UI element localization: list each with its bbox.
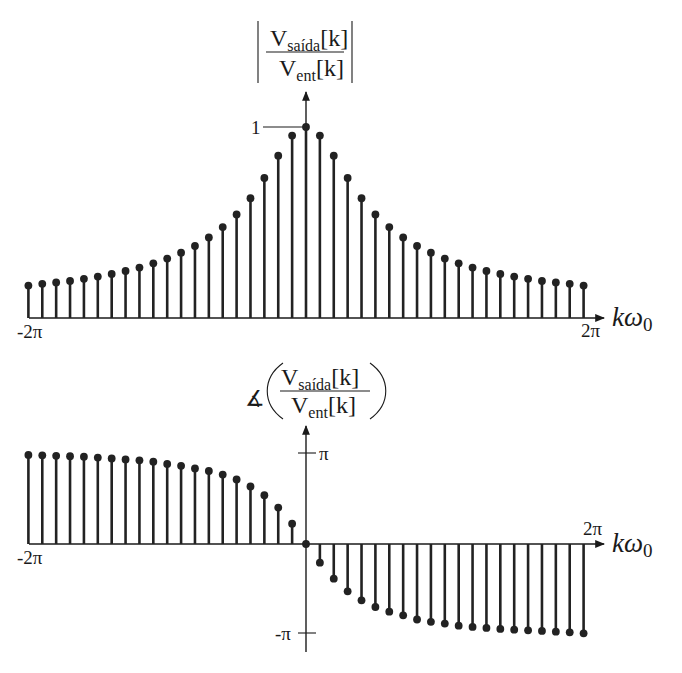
- stem-marker-k-15: [94, 454, 102, 462]
- stem-marker-k-18: [52, 452, 60, 460]
- x-axis-label: kω0: [612, 302, 653, 335]
- stem-marker-k-9: [177, 249, 185, 257]
- angle-symbol: ∡: [245, 386, 265, 411]
- x-tick-label-left: -2π: [17, 321, 43, 342]
- stem-marker-k-11: [149, 259, 157, 267]
- stem-marker-k13: [483, 624, 491, 632]
- stem-marker-k7: [399, 233, 407, 241]
- stem-marker-k-10: [163, 255, 171, 263]
- stem-marker-k-20: [25, 282, 33, 290]
- stem-marker-k11: [455, 259, 463, 267]
- stem-marker-k1: [316, 132, 324, 140]
- x-tick-label-right: 2π: [581, 320, 601, 341]
- stem-marker-k-13: [122, 456, 130, 464]
- stem-marker-k8: [413, 242, 421, 250]
- stem-marker-k8: [413, 616, 421, 624]
- stem-marker-k5: [372, 603, 380, 611]
- title-denominator: Vent[k]: [279, 55, 344, 84]
- stem-marker-k-17: [66, 277, 74, 285]
- stem-marker-k1: [316, 559, 324, 567]
- stem-marker-k13: [483, 267, 491, 275]
- magnitude-stems: [25, 123, 588, 318]
- y-tick-label-1: 1: [251, 117, 261, 138]
- stem-marker-k-10: [163, 460, 171, 468]
- stem-marker-k4: [358, 194, 366, 202]
- stem-marker-k3: [344, 587, 352, 595]
- stem-marker-k-1: [288, 520, 296, 528]
- stem-marker-k-16: [80, 275, 88, 283]
- stem-marker-k16: [524, 275, 532, 283]
- x-tick-label-left: -2π: [17, 547, 43, 568]
- stem-marker-k-2: [274, 152, 282, 160]
- stem-marker-k-11: [149, 458, 157, 466]
- stem-marker-k18: [552, 628, 560, 636]
- stem-marker-k-9: [177, 462, 185, 470]
- stem-marker-k2: [330, 575, 338, 583]
- stem-marker-k0: [302, 123, 310, 131]
- stem-plots-figure: Vsaída[k] Vent[k] 1 -2π 2π kω0 ∡ Vsaída[…: [0, 0, 682, 673]
- stem-marker-k-6: [219, 223, 227, 231]
- stem-marker-k10: [441, 255, 449, 263]
- stem-marker-k-3: [260, 174, 268, 182]
- stem-marker-k15: [510, 626, 518, 634]
- stem-marker-k-14: [108, 270, 116, 278]
- stem-marker-k16: [524, 626, 532, 634]
- stem-marker-k-7: [205, 233, 213, 241]
- stem-marker-k9: [427, 249, 435, 257]
- title-numerator: Vsaída[k]: [270, 25, 348, 54]
- stem-marker-k-13: [122, 267, 130, 275]
- stem-marker-k-2: [274, 504, 282, 512]
- stem-marker-k14: [496, 270, 504, 278]
- y-tick-label-minus-pi: -π: [275, 623, 291, 644]
- stem-marker-k17: [538, 627, 546, 635]
- stem-marker-k18: [552, 279, 560, 287]
- stem-marker-k-17: [66, 452, 74, 460]
- stem-marker-k9: [427, 618, 435, 626]
- stem-marker-k6: [385, 223, 393, 231]
- stem-marker-k4: [358, 596, 366, 604]
- x-axis-label: kω0: [612, 528, 653, 561]
- stem-marker-k-8: [191, 242, 199, 250]
- stem-marker-k5: [372, 211, 380, 219]
- stem-marker-k14: [496, 625, 504, 633]
- stem-marker-k-5: [233, 211, 241, 219]
- stem-marker-k10: [441, 620, 449, 628]
- stem-marker-k7: [399, 611, 407, 619]
- paren-right: [370, 363, 386, 419]
- stem-marker-k-19: [38, 280, 46, 288]
- phase-plot: ∡ Vsaída[k] Vent[k] π -π -2π 2π kω0: [17, 363, 653, 652]
- stem-marker-k-7: [205, 467, 213, 475]
- stem-marker-k-12: [136, 264, 144, 272]
- magnitude-title: Vsaída[k] Vent[k]: [258, 21, 352, 84]
- stem-marker-k-4: [247, 194, 255, 202]
- stem-marker-k12: [469, 264, 477, 272]
- magnitude-plot: Vsaída[k] Vent[k] 1 -2π 2π kω0: [17, 21, 653, 342]
- stem-marker-k15: [510, 273, 518, 281]
- stem-marker-k-12: [136, 456, 144, 464]
- stem-marker-k-14: [108, 455, 116, 463]
- stem-marker-k-1: [288, 132, 296, 140]
- stem-marker-k0: [302, 540, 310, 548]
- stem-marker-k-8: [191, 465, 199, 473]
- stem-marker-k20: [580, 629, 588, 637]
- stem-marker-k17: [538, 277, 546, 285]
- title-numerator: Vsaída[k]: [281, 364, 359, 393]
- x-tick-label-right: 2π: [583, 518, 603, 539]
- stem-marker-k19: [566, 628, 574, 636]
- stem-marker-k6: [385, 608, 393, 616]
- stem-marker-k3: [344, 174, 352, 182]
- stem-marker-k-16: [80, 453, 88, 461]
- stem-marker-k-3: [260, 491, 268, 499]
- title-numerator-arg: [k]: [320, 25, 348, 51]
- phase-title: ∡ Vsaída[k] Vent[k]: [245, 363, 386, 421]
- stem-marker-k-18: [52, 279, 60, 287]
- stem-marker-k20: [580, 282, 588, 290]
- stem-marker-k-15: [94, 273, 102, 281]
- stem-marker-k12: [469, 623, 477, 631]
- stem-marker-k2: [330, 152, 338, 160]
- stem-marker-k-6: [219, 471, 227, 479]
- title-denominator: Vent[k]: [291, 392, 356, 421]
- stem-marker-k-19: [38, 451, 46, 459]
- stem-marker-k-5: [233, 476, 241, 484]
- stem-marker-k-20: [25, 451, 33, 459]
